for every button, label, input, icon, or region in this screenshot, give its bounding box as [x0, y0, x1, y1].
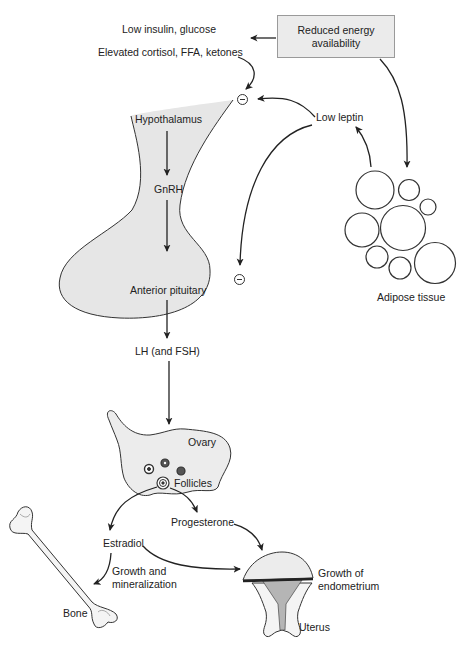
- diagram-canvas: Reduced energy availability Low insulin,…: [0, 0, 469, 647]
- label-ovary: Ovary: [188, 436, 216, 449]
- label-uterus: Uterus: [299, 621, 330, 634]
- inhibition-minus-icon-hypothalamus: [237, 94, 248, 105]
- energy-box-line1: Reduced energy: [297, 24, 374, 37]
- label-elevated-cortisol: Elevated cortisol, FFA, ketones: [98, 46, 243, 59]
- label-bone: Bone: [63, 607, 88, 620]
- arrow-leptin-hypothalamus: [258, 98, 315, 117]
- label-lh-fsh: LH (and FSH): [135, 345, 200, 358]
- arrow-progesterone-uterus: [234, 524, 262, 550]
- arrow-cortisol-hypothalamus: [238, 57, 254, 89]
- arrow-adipose-leptin: [356, 127, 371, 167]
- adipose-tissue-cells: [345, 171, 456, 284]
- label-growth-mineralization: Growth and mineralization: [112, 565, 177, 591]
- label-low-insulin: Low insulin, glucose: [122, 23, 216, 36]
- label-adipose-tissue: Adipose tissue: [377, 291, 445, 304]
- label-growth-endometrium: Growth of endometrium: [318, 567, 379, 593]
- arrow-leptin-pituitary: [240, 125, 312, 265]
- label-gnrh: GnRH: [154, 183, 183, 196]
- energy-box-line2: availability: [312, 37, 360, 50]
- label-hypothalamus: Hypothalamus: [135, 113, 202, 126]
- growth-endometrium-line2: endometrium: [318, 580, 379, 593]
- label-low-leptin: Low leptin: [316, 111, 363, 124]
- growth-endometrium-line1: Growth of: [318, 567, 379, 580]
- reduced-energy-availability-box: Reduced energy availability: [277, 15, 395, 58]
- growth-mineralization-line2: mineralization: [112, 578, 177, 591]
- arrow-energy-adipose: [380, 59, 407, 167]
- label-estradiol: Estradiol: [103, 537, 144, 550]
- label-follicles: Follicles: [174, 477, 212, 490]
- arrow-estradiol-bone: [94, 553, 111, 584]
- growth-mineralization-line1: Growth and: [112, 565, 177, 578]
- inhibition-minus-icon-pituitary: [234, 274, 245, 285]
- label-anterior-pituitary: Anterior pituitary: [130, 284, 206, 297]
- label-progesterone: Progesterone: [171, 516, 234, 529]
